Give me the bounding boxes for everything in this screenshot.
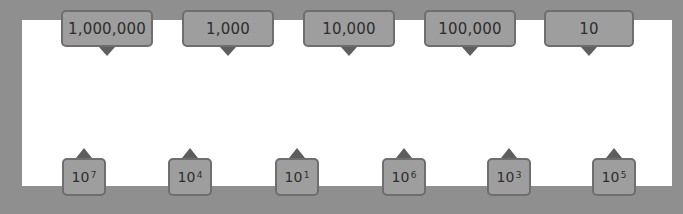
power-base: 10 bbox=[601, 169, 619, 185]
standard-number-card[interactable]: 1,000 bbox=[182, 10, 274, 47]
power-exponent: 6 bbox=[411, 170, 417, 180]
power-exponent: 1 bbox=[304, 170, 310, 180]
power-base: 10 bbox=[284, 169, 302, 185]
power-base: 10 bbox=[177, 169, 195, 185]
power-exponent: 5 bbox=[621, 170, 627, 180]
power-of-ten-card[interactable]: 101 bbox=[275, 158, 319, 196]
standard-number-label: 100,000 bbox=[438, 20, 501, 38]
power-of-ten-card[interactable]: 106 bbox=[382, 158, 426, 196]
standard-number-card[interactable]: 100,000 bbox=[424, 10, 516, 47]
standard-number-label: 1,000 bbox=[206, 20, 250, 38]
standard-number-card[interactable]: 1,000,000 bbox=[61, 10, 153, 47]
power-of-ten-card[interactable]: 103 bbox=[487, 158, 531, 196]
power-of-ten-card[interactable]: 104 bbox=[168, 158, 212, 196]
power-exponent: 3 bbox=[516, 170, 522, 180]
standard-number-label: 10 bbox=[579, 20, 599, 38]
standard-number-label: 10,000 bbox=[322, 20, 376, 38]
power-base: 10 bbox=[71, 169, 89, 185]
power-exponent: 4 bbox=[197, 170, 203, 180]
power-base: 10 bbox=[391, 169, 409, 185]
power-of-ten-card[interactable]: 105 bbox=[592, 158, 636, 196]
power-of-ten-card[interactable]: 107 bbox=[62, 158, 106, 196]
standard-number-card[interactable]: 10,000 bbox=[303, 10, 395, 47]
power-exponent: 7 bbox=[91, 170, 97, 180]
power-base: 10 bbox=[496, 169, 514, 185]
standard-number-label: 1,000,000 bbox=[68, 20, 146, 38]
standard-number-card[interactable]: 10 bbox=[544, 10, 634, 47]
